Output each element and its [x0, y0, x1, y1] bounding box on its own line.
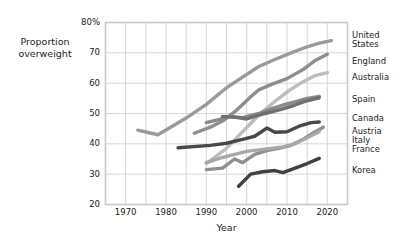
legend-label-australia: Australia: [352, 73, 389, 82]
y-tick-60: 60: [74, 78, 100, 88]
overweight-proportion-line-chart: Proportion overweight Year 2030405060708…: [0, 0, 400, 240]
legend-label-line: Spain: [352, 95, 375, 104]
y-tick-70: 70: [74, 47, 100, 57]
legend-label-france: France: [352, 145, 380, 154]
x-tick-1990: 1990: [186, 207, 226, 217]
x-tick-2010: 2010: [267, 207, 307, 217]
y-axis-title-line-1: Proportion: [4, 36, 86, 48]
series-line-france: [206, 132, 319, 163]
x-tick-1980: 1980: [146, 207, 186, 217]
x-tick-2020: 2020: [307, 207, 347, 217]
x-axis-title: Year: [105, 222, 348, 233]
legend-label-line: Australia: [352, 73, 389, 82]
legend-label-canada: Canada: [352, 114, 384, 123]
x-tick-2000: 2000: [227, 207, 267, 217]
legend-label-line: Korea: [352, 166, 376, 175]
y-tick-40: 40: [74, 138, 100, 148]
gridlines: [106, 23, 348, 205]
x-tick-1970: 1970: [106, 207, 146, 217]
series-line-united-states: [138, 41, 332, 135]
legend-label-line: Canada: [352, 114, 384, 123]
legend-label-england: England: [352, 57, 386, 66]
y-tick-30: 30: [74, 169, 100, 179]
legend-label-spain: Spain: [352, 95, 375, 104]
y-tick-20: 20: [74, 199, 100, 209]
legend-label-line: States: [352, 40, 380, 49]
legend-label-korea: Korea: [352, 166, 376, 175]
legend-label-united-states: UnitedStates: [352, 31, 380, 50]
y-tick-80: 80%: [74, 17, 100, 27]
legend-label-line: France: [352, 145, 380, 154]
y-tick-50: 50: [74, 108, 100, 118]
legend-label-line: England: [352, 57, 386, 66]
